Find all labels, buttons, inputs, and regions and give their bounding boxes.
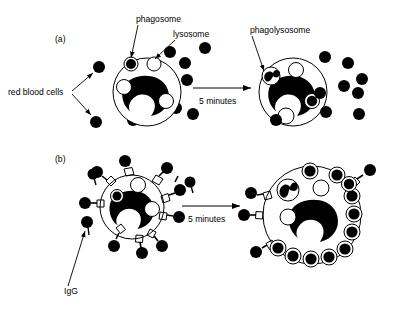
callout-igg: IgG <box>64 231 85 296</box>
panel-a: (a) <box>8 14 368 128</box>
igg-coated-red-blood-cell <box>167 211 185 223</box>
lysosome <box>131 178 146 193</box>
callout-red-blood-cells: red blood cells <box>8 73 93 115</box>
igg-coated-red-blood-cell <box>159 162 173 176</box>
red-blood-cell <box>319 51 331 63</box>
internalized-rbc <box>337 241 353 257</box>
phagosome <box>124 57 138 71</box>
igg-coated-red-blood-cell <box>238 209 256 221</box>
red-blood-cell <box>181 74 193 86</box>
diagram-canvas: (a) <box>0 0 402 309</box>
transition-arrow-a: 5 minutes <box>193 88 251 106</box>
lysosome <box>313 180 329 196</box>
red-blood-cell <box>179 57 191 69</box>
macrophage-before <box>113 57 181 126</box>
transition-arrow-b: 5 minutes <box>182 206 240 224</box>
figure-container: (a) <box>0 0 402 309</box>
igg-coated-red-blood-cell <box>154 236 168 252</box>
igg-coated-red-blood-cell <box>175 176 178 182</box>
red-blood-cell <box>199 42 211 54</box>
internalized-rbc <box>346 206 362 222</box>
red-blood-cell <box>352 87 364 99</box>
rbc-leader-line-upper <box>72 73 93 91</box>
red-blood-cell <box>93 61 105 73</box>
red-blood-cell <box>320 106 332 118</box>
macrophage-after-igg <box>238 163 376 267</box>
lysosome <box>280 209 296 225</box>
red-blood-cell <box>342 57 354 69</box>
lysosome <box>147 57 161 71</box>
red-blood-cell <box>90 116 102 128</box>
internalized-rbc <box>270 240 286 256</box>
rbc-leader-line-lower <box>72 94 91 115</box>
igg-label: IgG <box>64 286 78 296</box>
igg-coated-red-blood-cell <box>250 245 267 258</box>
panel-b: (b) <box>55 154 376 296</box>
lysosome <box>145 202 160 217</box>
lysosome-label: lysosome <box>173 29 210 39</box>
fc-receptor <box>256 212 264 220</box>
igg-coated-red-blood-cell <box>245 187 263 199</box>
phagosome <box>111 190 124 203</box>
igg-coated-red-blood-cell <box>169 184 186 196</box>
internalized-rbc <box>321 249 337 265</box>
transition-time-label-b: 5 minutes <box>188 214 225 224</box>
igg-coated-red-blood-cell <box>81 216 93 235</box>
red-blood-cell <box>353 108 365 120</box>
phagolysosome <box>277 179 299 201</box>
transition-time-label-a: 5 minutes <box>199 96 236 106</box>
panel-a-label: (a) <box>55 34 66 44</box>
phagosome-label: phagosome <box>136 14 181 24</box>
internalized-rbc <box>342 177 357 192</box>
phagosome-leader-line <box>131 25 138 58</box>
internalized-rbc <box>285 248 301 264</box>
panel-b-label: (b) <box>55 154 66 164</box>
phagolysosome-leader-line <box>252 36 264 71</box>
igg-coated-red-blood-cell <box>357 164 376 179</box>
phagolysosome <box>262 67 280 85</box>
lysosome <box>289 63 304 78</box>
igg-coated-red-blood-cell <box>136 242 148 259</box>
red-blood-cell <box>314 87 326 99</box>
igg-coated-red-blood-cell <box>79 197 97 209</box>
red-blood-cell <box>338 80 350 92</box>
igg-coated-red-blood-cell <box>119 155 131 167</box>
igg-coated-red-blood-cell <box>185 177 196 194</box>
internalized-rbc <box>302 163 318 179</box>
red-blood-cells-label: red blood cells <box>8 87 63 97</box>
internalized-rbc <box>303 251 319 267</box>
lysosome <box>117 80 132 95</box>
igg-coated-red-blood-cell <box>88 169 99 186</box>
red-blood-cell <box>164 46 176 58</box>
red-blood-cell <box>356 73 368 85</box>
lysosome <box>159 94 174 109</box>
internalized-rbc <box>344 224 360 240</box>
igg-leader-line <box>68 231 85 286</box>
red-blood-cell <box>270 114 282 126</box>
phagolysosome-label: phagolysosome <box>250 25 310 35</box>
red-blood-cell <box>187 108 199 120</box>
